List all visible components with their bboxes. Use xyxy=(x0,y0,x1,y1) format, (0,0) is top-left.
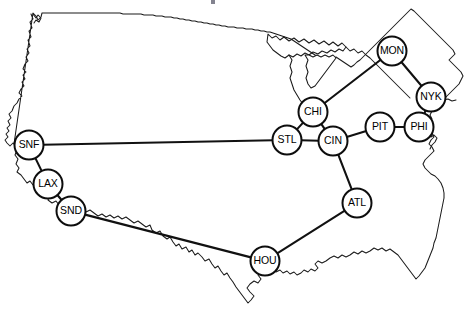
network-edge-snf-stl[interactable] xyxy=(43,140,274,144)
lake-michigan-michigan-outline xyxy=(305,55,336,88)
network-node-lax[interactable]: LAX xyxy=(34,170,63,199)
node-label-snf: SNF xyxy=(19,138,40,150)
network-node-hou[interactable]: HOU xyxy=(251,247,280,276)
network-node-nyk[interactable]: NYK xyxy=(417,83,446,112)
network-node-pit[interactable]: PIT xyxy=(366,113,395,142)
network-node-phi[interactable]: PHI xyxy=(405,113,434,142)
network-node-stl[interactable]: STL xyxy=(273,126,302,155)
lake-michigan-west-shore xyxy=(289,55,303,104)
network-nodes-layer: SNFLAXSNDHOUATLSTLCHICINPITPHINYKMON xyxy=(15,37,446,276)
network-edge-cin-pit[interactable] xyxy=(346,131,367,137)
network-edge-snd-hou[interactable] xyxy=(84,214,252,257)
node-label-mon: MON xyxy=(380,44,404,56)
node-label-stl: STL xyxy=(278,133,297,145)
node-label-snd: SND xyxy=(60,204,82,216)
node-label-phi: PHI xyxy=(410,120,427,132)
network-edge-nyk-mon[interactable] xyxy=(401,61,423,86)
scan-speck-artifact xyxy=(211,0,215,4)
network-edge-snf-lax[interactable] xyxy=(35,157,42,172)
node-label-lax: LAX xyxy=(38,177,58,189)
node-label-pit: PIT xyxy=(372,120,389,132)
node-label-chi: CHI xyxy=(304,105,322,117)
network-node-mon[interactable]: MON xyxy=(378,37,407,66)
great-lakes-superior xyxy=(267,34,346,58)
network-node-snd[interactable]: SND xyxy=(57,197,86,226)
network-edge-hou-atl[interactable] xyxy=(276,210,345,254)
network-map-svg: SNFLAXSNDHOUATLSTLCHICINPITPHINYKMON xyxy=(0,0,469,327)
network-edges-layer xyxy=(35,59,426,257)
node-label-atl: ATL xyxy=(348,196,366,208)
network-edge-atl-cin[interactable] xyxy=(338,154,352,191)
node-label-hou: HOU xyxy=(253,254,276,266)
diagram-canvas: SNFLAXSNDHOUATLSTLCHICINPITPHINYKMON xyxy=(0,0,469,327)
network-node-snf[interactable]: SNF xyxy=(15,131,44,160)
network-node-chi[interactable]: CHI xyxy=(299,98,328,127)
network-node-atl[interactable]: ATL xyxy=(343,189,372,218)
network-node-cin[interactable]: CIN xyxy=(319,127,348,156)
node-label-cin: CIN xyxy=(324,134,342,146)
node-label-nyk: NYK xyxy=(420,90,441,102)
